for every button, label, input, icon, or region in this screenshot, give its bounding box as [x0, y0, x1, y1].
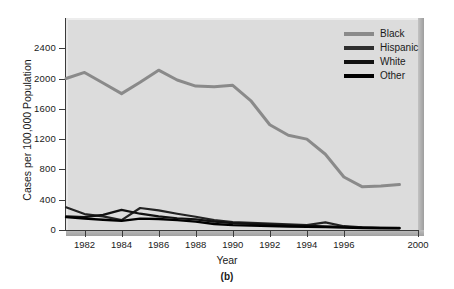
legend-label-black: Black — [380, 29, 404, 39]
legend: BlackHispanicWhiteOther — [344, 27, 418, 83]
legend-label-white: White — [380, 57, 406, 67]
x-axis-title: Year — [0, 254, 454, 266]
legend-swatch-other — [344, 74, 374, 78]
legend-swatch-black — [344, 32, 374, 36]
legend-label-hispanic: Hispanic — [380, 43, 418, 53]
figure: 04008001200160020002400 1982198419861988… — [0, 0, 454, 289]
legend-swatch-white — [344, 60, 374, 64]
legend-item-hispanic[interactable]: Hispanic — [344, 41, 418, 54]
legend-item-black[interactable]: Black — [344, 27, 418, 40]
series-line-black — [66, 70, 399, 187]
legend-item-white[interactable]: White — [344, 55, 418, 68]
legend-label-other: Other — [380, 71, 405, 81]
legend-swatch-hispanic — [344, 46, 374, 50]
legend-item-other[interactable]: Other — [344, 69, 418, 82]
y-axis-title: Cases per 100,000 Population — [21, 20, 33, 240]
panel-caption: (b) — [0, 271, 454, 282]
